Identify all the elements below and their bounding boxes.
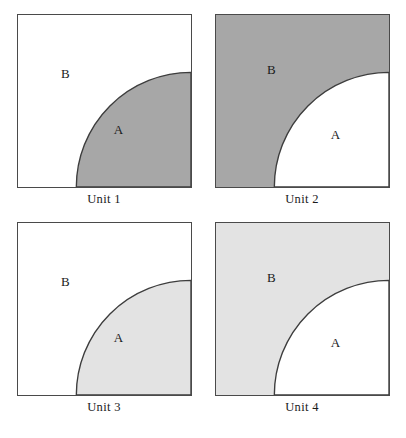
region-label-b-unit-4: B — [267, 271, 276, 284]
region-label-a-unit-3: A — [114, 331, 124, 344]
region-label-a-unit-2: A — [331, 128, 341, 141]
panel-square-unit-4: B A — [215, 222, 390, 396]
region-shapes-unit-1 — [18, 15, 191, 187]
panel-caption-unit-3: Unit 3 — [5, 400, 203, 415]
panel-square-unit-1: B A — [17, 14, 192, 188]
region-label-b-unit-3: B — [61, 275, 70, 288]
panel-unit-3: B A Unit 3 — [5, 222, 203, 430]
region-shapes-unit-4 — [216, 223, 389, 395]
region-shapes-unit-3 — [18, 223, 191, 395]
region-label-a-unit-1: A — [114, 123, 124, 136]
panel-caption-unit-1: Unit 1 — [5, 192, 203, 207]
panel-square-unit-2: B A — [215, 14, 390, 188]
region-label-b-unit-1: B — [61, 67, 70, 80]
panel-unit-1: B A Unit 1 — [5, 14, 203, 222]
panel-grid: B A Unit 1 B A Unit 2 — [0, 0, 406, 438]
panel-caption-unit-2: Unit 2 — [203, 192, 401, 207]
panel-unit-4: B A Unit 4 — [203, 222, 401, 430]
unit-panels-figure: B A Unit 1 B A Unit 2 — [0, 0, 406, 438]
panel-unit-2: B A Unit 2 — [203, 14, 401, 222]
region-label-a-unit-4: A — [331, 336, 341, 349]
region-label-b-unit-2: B — [267, 63, 276, 76]
panel-square-unit-3: B A — [17, 222, 192, 396]
panel-caption-unit-4: Unit 4 — [203, 400, 401, 415]
region-shapes-unit-2 — [216, 15, 389, 187]
